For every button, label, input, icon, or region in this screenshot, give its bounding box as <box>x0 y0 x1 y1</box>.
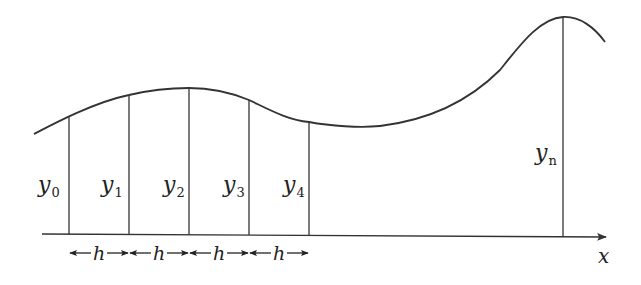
trapezoidal-rule-diagram: x y0y1y2y3y4yn hhhh <box>0 0 641 285</box>
ordinate-label-y0: y0 <box>37 172 60 200</box>
x-axis <box>42 234 606 237</box>
interval-label-h: h <box>93 242 105 264</box>
interval-label-h: h <box>153 242 165 264</box>
ordinate-label-y1: y1 <box>100 172 123 200</box>
interval-label-h: h <box>273 242 285 264</box>
ordinate-label-y2: y2 <box>162 172 185 200</box>
interval-label-h: h <box>213 242 225 264</box>
ordinate-label-y4: y4 <box>282 172 305 200</box>
ordinate-lines <box>69 17 563 237</box>
ordinate-labels: y0y1y2y3y4yn <box>37 140 557 200</box>
function-curve <box>34 17 605 134</box>
x-axis-label: x <box>598 244 609 268</box>
ordinate-label-yn: yn <box>534 140 557 168</box>
interval-markers: hhhh <box>70 242 308 264</box>
ordinate-label-y3: y3 <box>222 172 245 200</box>
